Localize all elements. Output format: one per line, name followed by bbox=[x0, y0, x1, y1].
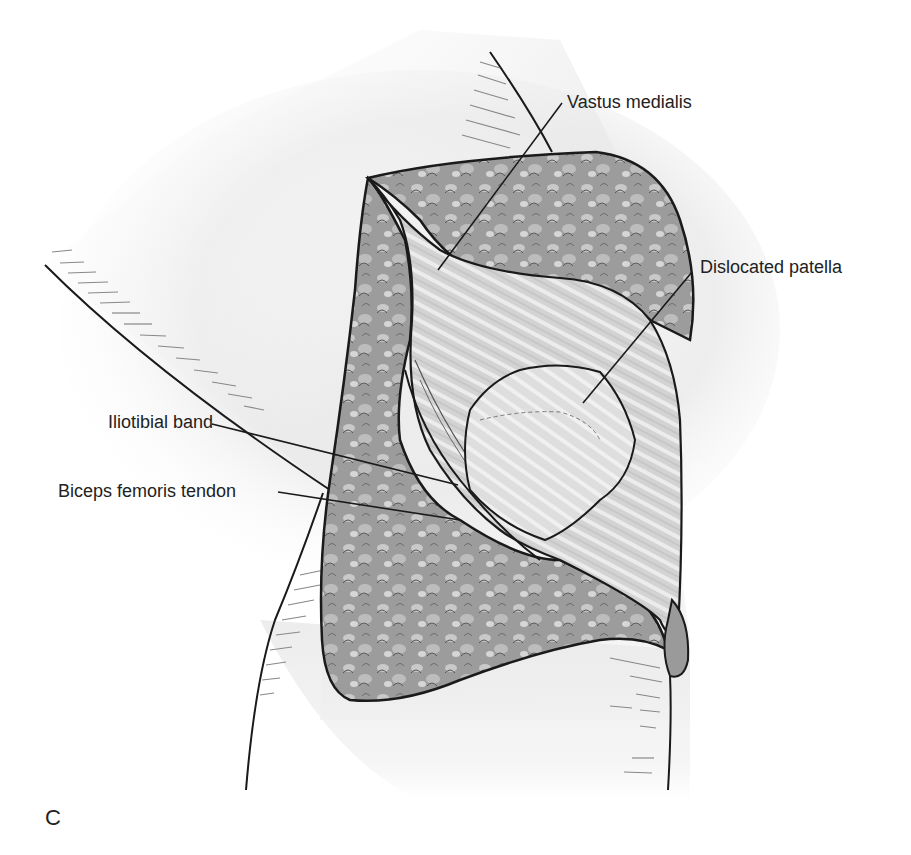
label-vastus-medialis: Vastus medialis bbox=[567, 93, 692, 111]
anatomical-figure: Vastus medialis Dislocated patella Iliot… bbox=[0, 0, 911, 855]
label-iliotibial-band: Iliotibial band bbox=[108, 413, 213, 431]
panel-letter: C bbox=[45, 807, 61, 829]
label-dislocated-patella: Dislocated patella bbox=[700, 258, 842, 276]
label-biceps-femoris-tendon: Biceps femoris tendon bbox=[58, 482, 236, 500]
